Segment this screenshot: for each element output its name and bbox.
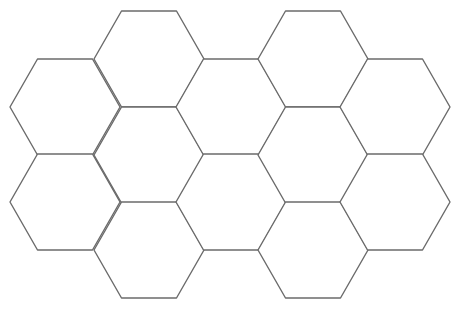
hexagon-grid-diagram [0, 0, 460, 309]
